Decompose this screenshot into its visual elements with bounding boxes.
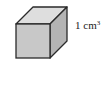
cube-front-face bbox=[16, 24, 50, 58]
volume-label: 1 cm3 bbox=[75, 19, 100, 31]
cubic-exponent: 3 bbox=[97, 19, 101, 27]
unit-cube-diagram bbox=[0, 0, 105, 87]
